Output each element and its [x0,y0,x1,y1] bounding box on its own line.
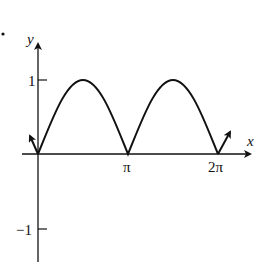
x-tick-label-2pi: 2π [208,159,224,175]
y-tick-label-1: 1 [28,73,36,89]
abs-sine-curve [38,80,218,154]
left-continuation-arrow [30,136,38,154]
x-axis-label: x [246,133,254,149]
y-axis-label: y [25,31,34,47]
right-continuation-arrow [218,132,230,154]
y-tick-label-neg1: −1 [16,222,32,238]
bullet-dot [1,32,4,35]
graph-canvas: y x 1 −1 π 2π [0,0,264,263]
x-tick-label-pi: π [123,159,131,175]
